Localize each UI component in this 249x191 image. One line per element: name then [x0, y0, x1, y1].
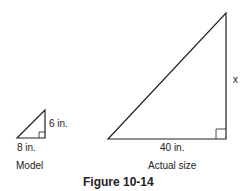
- model-title: Model: [16, 160, 43, 171]
- actual-triangle: [108, 13, 226, 139]
- actual-height-label: x: [233, 74, 238, 85]
- figure-caption: Figure 10-14: [83, 175, 154, 189]
- actual-title: Actual size: [148, 160, 196, 171]
- model-base-label: 8 in.: [17, 142, 36, 153]
- model-height-label: 6 in.: [49, 118, 68, 129]
- model-triangle: [17, 110, 45, 138]
- actual-base-label: 40 in.: [160, 142, 184, 153]
